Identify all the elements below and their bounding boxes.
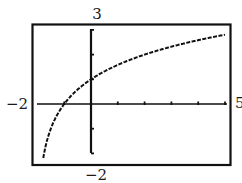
window-frame bbox=[33, 25, 231, 166]
ymin-label: −2 bbox=[85, 166, 107, 183]
ymax-label: 3 bbox=[92, 5, 102, 23]
xmin-label: −2 bbox=[6, 95, 28, 113]
graph-plot: 3 −2 −2 5 bbox=[0, 0, 242, 183]
function-curve bbox=[43, 35, 225, 158]
xmax-label: 5 bbox=[235, 94, 242, 112]
